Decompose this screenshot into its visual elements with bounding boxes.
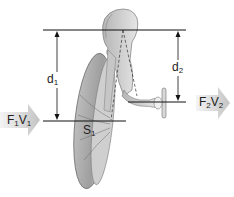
input-force-velocity-label: F1V1 bbox=[7, 114, 31, 128]
malleus-incus bbox=[103, 9, 138, 112]
d2-label: d2 bbox=[172, 60, 183, 76]
input-v-sub: 1 bbox=[27, 119, 31, 128]
s1-label-main: S bbox=[83, 123, 91, 137]
d2-label-sub: 2 bbox=[179, 66, 183, 75]
output-v-sub: 2 bbox=[219, 101, 223, 110]
d2-label-main: d bbox=[172, 60, 179, 74]
output-force-velocity-label: F2V2 bbox=[199, 96, 223, 110]
d1-label-sub: 1 bbox=[54, 78, 58, 87]
output-v: V bbox=[211, 95, 219, 109]
s1-label: S1 bbox=[83, 124, 95, 138]
d1-label: d1 bbox=[47, 72, 58, 88]
input-v: V bbox=[19, 113, 27, 127]
d1-label-main: d bbox=[47, 72, 54, 86]
ossicle-lever-diagram: d1 d2 S1 F1V1 F2V2 bbox=[0, 0, 234, 197]
s1-label-sub: 1 bbox=[91, 129, 95, 138]
